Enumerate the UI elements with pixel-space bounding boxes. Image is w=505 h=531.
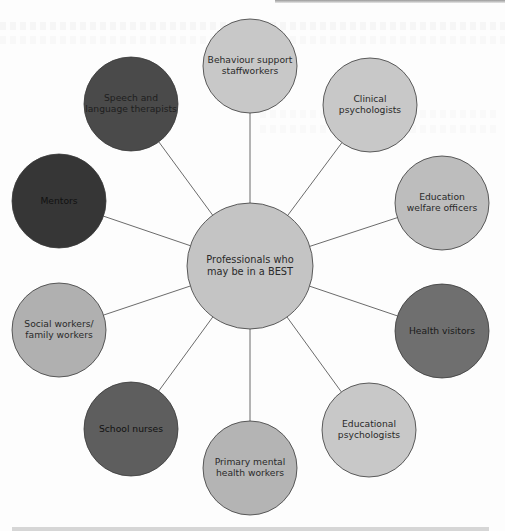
node-label-line: Health visitors — [409, 325, 475, 336]
node-label-line: School nurses — [99, 423, 163, 434]
node-health-visitors: Health visitors — [395, 284, 489, 378]
node-label-line: psychologists — [338, 429, 400, 440]
connector-line-speech-language-therapists — [159, 142, 213, 215]
node-label-line: Social workers/ — [24, 318, 94, 329]
node-clinical-psychologists: Clinicalpsychologists — [323, 58, 417, 152]
connector-line-social-family-workers — [104, 286, 191, 315]
center-node: Professionals whomay be in a BEST — [187, 203, 313, 329]
node-label-line: Clinical — [353, 93, 386, 104]
node-label-line: may be in a BEST — [207, 266, 294, 277]
node-label-line: Speech and — [104, 92, 158, 103]
node-education-welfare-officers: Educationwelfare officers — [395, 156, 489, 250]
connector-line-health-visitors — [310, 286, 398, 316]
node-label-line: Mentors — [40, 195, 77, 206]
node-label-line: Professionals who — [206, 254, 293, 265]
node-label-line: Behaviour support — [208, 54, 293, 65]
node-social-family-workers: Social workers/family workers — [12, 283, 106, 377]
node-label-line: Primary mental — [215, 456, 286, 467]
node-label-line: family workers — [25, 329, 93, 340]
node-school-nurses: School nurses — [84, 382, 178, 476]
center-node-group: Professionals whomay be in a BEST — [187, 203, 313, 329]
connector-line-school-nurses — [159, 317, 213, 391]
node-speech-language-therapists: Speech andlanguage therapists — [84, 57, 178, 151]
node-mentors: Mentors — [12, 154, 106, 248]
node-label-line: Educational — [342, 418, 396, 429]
node-label-line: Education — [419, 191, 465, 202]
node-behaviour-support: Behaviour supportstaffworkers — [203, 19, 297, 113]
node-label-line: welfare officers — [407, 202, 478, 213]
connector-line-clinical-psychologists — [288, 143, 342, 216]
node-label-line: language therapists — [85, 103, 177, 114]
node-educational-psychologists: Educationalpsychologists — [322, 383, 416, 477]
node-label-line: health workers — [216, 467, 284, 478]
connector-line-educational-psychologists — [287, 317, 341, 392]
node-label-line: psychologists — [339, 104, 401, 115]
hub-spoke-diagram: Behaviour supportstaffworkersClinicalpsy… — [0, 0, 505, 531]
connector-line-mentors — [103, 216, 190, 246]
node-label-line: staffworkers — [222, 65, 279, 76]
node-primary-mental-health-workers: Primary mentalhealth workers — [203, 421, 297, 515]
connector-line-education-welfare-officers — [310, 218, 397, 247]
